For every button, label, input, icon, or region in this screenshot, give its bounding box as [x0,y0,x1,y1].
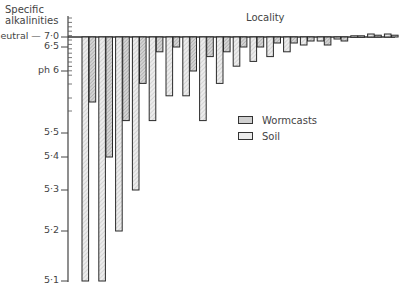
bar [324,37,331,45]
bar [183,37,190,96]
bar [368,34,375,37]
bar [89,37,96,102]
bar [308,37,315,41]
bar [156,37,163,52]
bar [334,37,341,39]
bar [166,37,173,96]
bar [116,37,123,231]
bar [149,37,156,121]
bar [375,35,382,37]
bar [200,37,207,121]
bar [233,37,240,66]
bar [250,37,257,61]
legend: Wormcasts Soil [238,113,317,145]
bar [224,37,231,52]
bar [132,37,139,190]
bar [291,37,298,43]
bar [82,37,89,281]
bar [257,37,264,47]
bar [392,35,399,37]
bar [274,37,281,43]
bar [207,37,214,57]
bar [240,37,247,47]
bar [358,36,365,38]
bar [140,37,147,83]
legend-item-soil: Soil [238,129,317,143]
legend-item-wormcasts: Wormcasts [238,113,317,127]
bar [123,37,130,121]
bars [82,34,398,281]
bar [173,37,180,47]
legend-label-wormcasts: Wormcasts [262,115,317,126]
bar [190,37,197,71]
legend-swatch-soil [238,132,253,140]
bar [351,36,358,38]
bar [341,37,348,41]
bar [284,37,291,52]
bar [384,34,391,37]
legend-label-soil: Soil [262,131,280,142]
chart-plot-area [0,0,404,289]
bar [300,37,307,45]
bar [106,37,113,157]
legend-swatch-wormcasts [238,116,253,124]
bar [317,37,324,41]
bar [267,37,274,57]
bar [99,37,106,281]
bar [216,37,223,83]
